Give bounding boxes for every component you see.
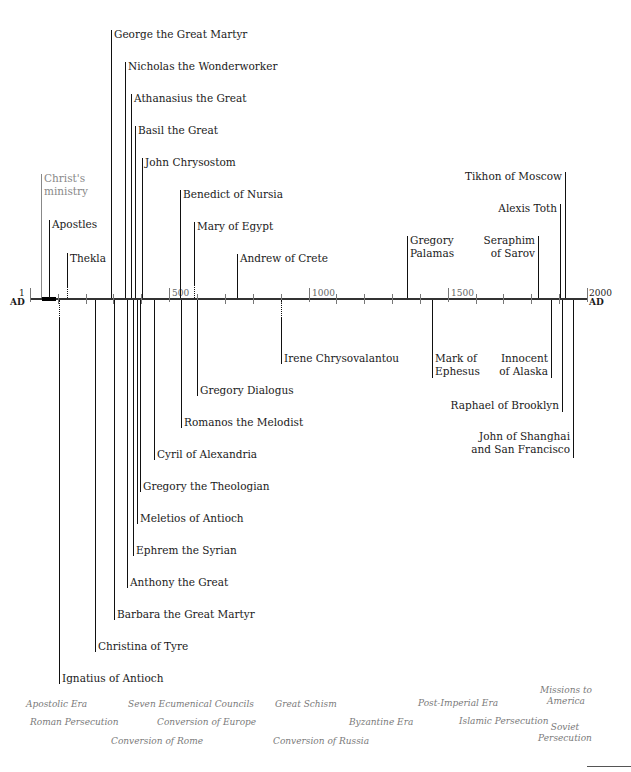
gregory-palamas-label: Gregory Palamas (410, 234, 454, 260)
gregory-dialogus-label: Gregory Dialogus (200, 384, 294, 397)
andrew-label: Andrew of Crete (240, 252, 328, 265)
john-shanghai-line (573, 300, 574, 458)
anthony-label: Anthony the Great (130, 576, 228, 589)
romanos-line (181, 300, 182, 428)
mark-line (432, 300, 433, 378)
axis-end-tick (587, 288, 588, 302)
raphael-label: Raphael of Brooklyn (451, 399, 559, 412)
benedict-line (180, 190, 181, 298)
axis-tick (225, 294, 226, 304)
label-line: John of Shanghai (471, 430, 570, 443)
basil-line (135, 126, 136, 298)
ephrem-label: Ephrem the Syrian (136, 544, 237, 557)
thekla-dotted-line (67, 286, 68, 298)
label-line: Gregory (410, 234, 454, 247)
barbara-label: Barbara the Great Martyr (117, 608, 255, 621)
ignatius-label: Ignatius of Antioch (62, 672, 163, 685)
alexis-line (560, 204, 561, 298)
axis-end-unit: AD (589, 297, 604, 307)
axis-tick-label-1000: 1000 (312, 288, 335, 298)
christina-label: Christina of Tyre (98, 640, 188, 653)
era-soviet-persecution: Soviet Persecution (536, 722, 594, 744)
christs-ministry-line (41, 174, 42, 298)
seraphim-line (538, 236, 539, 298)
john-chrysostom-line (142, 158, 143, 298)
axis-start-tick (30, 288, 31, 302)
tikhon-line (565, 172, 566, 298)
christina-line (95, 300, 96, 652)
innocent-label: Innocent of Alaska (499, 352, 548, 378)
andrew-line (237, 254, 238, 298)
nicholas-label: Nicholas the Wonderworker (128, 60, 277, 73)
mary-label: Mary of Egypt (197, 220, 273, 233)
irene-dotted-line (281, 300, 282, 318)
axis-tick (531, 294, 532, 304)
footer-rule (587, 766, 631, 767)
label-line: of Sarov (484, 247, 536, 260)
mary-line (194, 222, 195, 284)
axis-tick (86, 294, 87, 304)
christs-ministry-label: Christ's ministry (44, 172, 88, 198)
apostles-label: Apostles (52, 218, 97, 231)
era-conversion-russia: Conversion of Russia (273, 736, 369, 747)
axis-tick (392, 294, 393, 304)
axis-tick (336, 294, 337, 304)
label-line: Persecution (536, 733, 594, 744)
basil-label: Basil the Great (138, 124, 218, 137)
meletios-label: Meletios of Antioch (140, 512, 244, 525)
label-line: of Alaska (499, 365, 548, 378)
cyril-line (154, 300, 155, 460)
athanasius-line (131, 94, 132, 298)
athanasius-label: Athanasius the Great (134, 92, 247, 105)
axis-tick (503, 294, 504, 304)
axis-tick-label-1500: 1500 (451, 288, 474, 298)
innocent-line (551, 300, 552, 378)
alexis-label: Alexis Toth (498, 202, 557, 215)
barbara-line (114, 300, 115, 620)
label-line: ministry (44, 185, 88, 198)
era-post-imperial: Post-Imperial Era (418, 698, 498, 709)
era-conversion-europe: Conversion of Europe (157, 717, 256, 728)
label-line: Seraphim (484, 234, 536, 247)
axis-tick-1000 (309, 288, 310, 302)
axis-tick (420, 294, 421, 304)
label-line: Soviet (536, 722, 594, 733)
gregory-theologian-line (140, 300, 141, 492)
axis-start-unit: AD (10, 297, 25, 307)
era-seven-councils: Seven Ecumenical Councils (128, 699, 254, 710)
ignatius-line (59, 318, 60, 684)
gregory-palamas-line (407, 236, 408, 298)
thekla-label: Thekla (70, 252, 106, 265)
era-missions-america: Missions to America (540, 685, 592, 707)
benedict-label: Benedict of Nursia (183, 188, 283, 201)
label-line: Missions to (540, 685, 592, 696)
ephrem-line (133, 300, 134, 556)
label-line: America (540, 696, 592, 707)
era-byzantine: Byzantine Era (349, 717, 413, 728)
john-chrysostom-label: John Chrysostom (145, 156, 236, 169)
label-line: Mark of (435, 352, 480, 365)
gregory-theologian-label: Gregory the Theologian (143, 480, 270, 493)
label-line: and San Francisco (471, 443, 570, 456)
axis-end-label: 2000 AD (589, 289, 612, 307)
mary-dotted-line (194, 284, 195, 298)
irene-label: Irene Chrysovalantou (284, 352, 399, 365)
label-line: Palamas (410, 247, 454, 260)
axis-start-label: 1 AD (10, 289, 25, 307)
nicholas-line (125, 62, 126, 298)
era-conversion-rome: Conversion of Rome (111, 736, 203, 747)
ignatius-dotted-line (59, 300, 60, 318)
era-apostolic: Apostolic Era (26, 699, 87, 710)
romanos-label: Romanos the Melodist (184, 416, 303, 429)
label-line: Christ's (44, 172, 88, 185)
anthony-line (127, 300, 128, 588)
raphael-line (562, 300, 563, 412)
era-roman-persecution: Roman Persecution (30, 717, 119, 728)
seraphim-label: Seraphim of Sarov (484, 234, 536, 260)
apostles-line (49, 220, 50, 298)
john-shanghai-label: John of Shanghai and San Francisco (471, 430, 570, 456)
label-line: Innocent (499, 352, 548, 365)
axis-tick (476, 294, 477, 304)
axis-tick-1500 (448, 288, 449, 302)
george-label: George the Great Martyr (114, 28, 247, 41)
